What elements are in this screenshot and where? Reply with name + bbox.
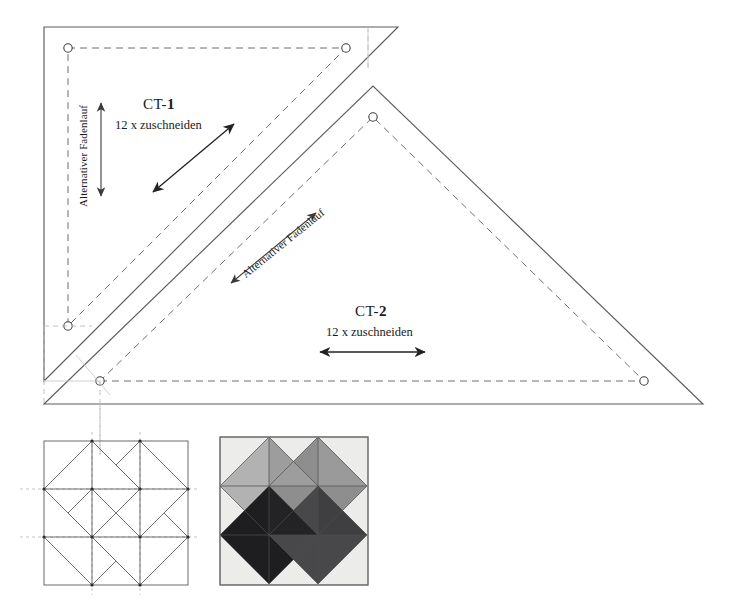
pattern-sheet: CT-1 12 x zuschneiden Alternativer Faden… xyxy=(0,0,743,608)
color-block-diagram xyxy=(0,0,743,608)
